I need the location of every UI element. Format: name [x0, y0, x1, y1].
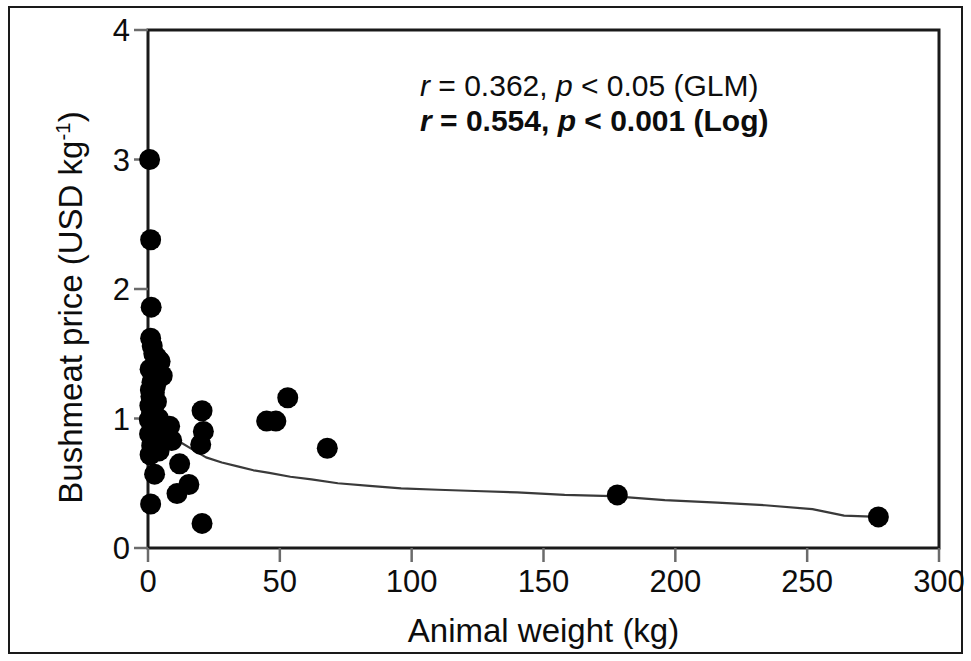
annotation-glm-r-symbol: r — [420, 69, 430, 102]
annotation-log-r-value: = 0.554, — [432, 104, 558, 137]
y-tick-label: 4 — [86, 15, 130, 46]
y-axis-title: Bushmeat price (USD kg-1) — [51, 0, 90, 618]
scatter-point — [144, 464, 165, 485]
y-axis-title-exponent: -1 — [51, 122, 74, 140]
y-axis-title-close: ) — [52, 111, 89, 122]
scatter-points-group — [139, 149, 889, 534]
x-tick-label: 50 — [263, 566, 297, 597]
x-tick-label: 100 — [386, 566, 438, 597]
scatter-point — [607, 484, 628, 505]
annotation-log-p-symbol: p — [558, 104, 576, 137]
x-tick-label: 200 — [649, 566, 701, 597]
scatter-point — [317, 438, 338, 459]
scatter-point — [265, 411, 286, 432]
figure-scatter-bushmeat-price: 01234 050100150200250300 Animal weight (… — [0, 0, 971, 661]
scatter-point — [139, 149, 160, 170]
scatter-point — [277, 387, 298, 408]
scatter-point — [140, 444, 161, 465]
scatter-point — [141, 297, 162, 318]
scatter-point — [140, 493, 161, 514]
annotation-glm-p-symbol: p — [556, 69, 573, 102]
scatter-point — [192, 513, 213, 534]
x-tick-label: 0 — [139, 566, 156, 597]
annotation-log-r-symbol: r — [420, 104, 432, 137]
annotation-glm-p-value: < 0.05 (GLM) — [573, 69, 759, 102]
x-tick-label: 300 — [913, 566, 965, 597]
x-axis-title: Animal weight (kg) — [148, 612, 939, 650]
scatter-point — [190, 434, 211, 455]
annotation-glm-r-value: = 0.362, — [430, 69, 556, 102]
y-tick-label: 3 — [86, 144, 130, 175]
x-tick-label: 150 — [518, 566, 570, 597]
y-tick-label: 1 — [86, 403, 130, 434]
scatter-point — [868, 506, 889, 527]
scatter-point — [169, 453, 190, 474]
y-tick-label: 2 — [86, 274, 130, 305]
scatter-point — [167, 483, 188, 504]
annotation-log: r = 0.554, p < 0.001 (Log) — [420, 103, 920, 138]
log-fit-curve — [150, 356, 878, 517]
fit-curve-line — [150, 356, 878, 517]
y-tick-label: 0 — [86, 533, 130, 564]
x-tick-label: 250 — [781, 566, 833, 597]
annotation-glm: r = 0.362, p < 0.05 (GLM) — [420, 68, 920, 103]
scatter-point — [140, 229, 161, 250]
statistics-annotation-block: r = 0.362, p < 0.05 (GLM) r = 0.554, p <… — [420, 68, 920, 139]
y-axis-title-main: Bushmeat price (USD kg — [52, 141, 89, 504]
scatter-point — [192, 400, 213, 421]
annotation-log-p-value: < 0.001 (Log) — [576, 104, 769, 137]
